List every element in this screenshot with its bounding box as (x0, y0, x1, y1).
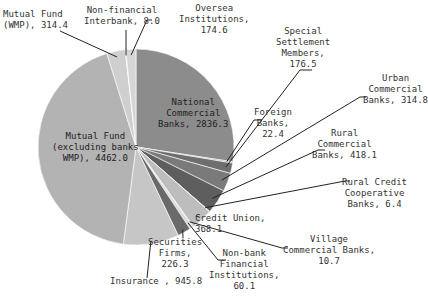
leader-line (205, 181, 350, 208)
label-rural-commercial-banks: Rural Commercial Banks, 418.1 (312, 128, 377, 161)
label-rural-credit-cooperative-banks: Rural Credit Cooperative Banks, 6.4 (342, 177, 407, 210)
label-urban-commercial-banks: Urban Commercial Banks, 314.8 (363, 73, 428, 106)
label-village-commercial-banks: Village Commercial Banks, 10.7 (283, 234, 375, 267)
label-national-commercial-banks: National Commercial Banks, 2836.3 (158, 97, 228, 130)
label-credit-union: Credit Union, 368.1 (195, 213, 265, 235)
label-mutual-fund-excluding-banks-wmp: Mutual Fund (excluding banks WMP), 4462.… (52, 131, 139, 164)
label-securities-firms: Securities Firms, 226.3 (148, 237, 202, 270)
label-oversea-institutions: Oversea Institutions, 174.6 (179, 3, 249, 36)
leader-line (60, 31, 117, 57)
label-special-settlement-members: Special Settlement Members, 176.5 (276, 26, 330, 70)
label-non-financial-interbank: Non-financial Interbank, 8.0 (84, 5, 160, 27)
label-mutual-fund-wmp: Mutual Fund (WMP), 314.4 (3, 9, 68, 31)
label-non-bank-financial-institutions: Non-bank Financial Institutions, 60.1 (209, 248, 279, 292)
label-insurance: Insurance , 945.8 (110, 276, 202, 287)
label-foreign-banks: Foreign Banks, 22.4 (254, 107, 292, 140)
